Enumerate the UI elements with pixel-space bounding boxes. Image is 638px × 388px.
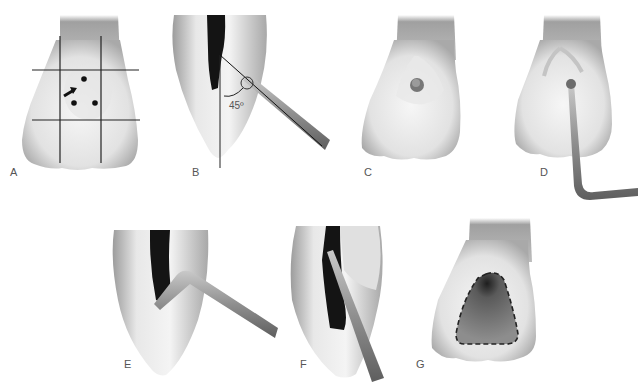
panel-g [432,218,536,362]
dental-access-figure: 45º [0,0,638,388]
panel-c [362,15,461,160]
dot-icon [71,100,77,106]
angle-label: 45º [229,100,244,111]
panel-e [113,230,278,375]
panel-label-b: B [192,166,199,178]
panel-label-f: F [300,358,307,370]
panel-a [22,15,140,170]
panel-d [514,15,638,200]
panel-label-d: D [540,166,548,178]
tooth-d-crown [514,40,612,158]
panel-label-e: E [124,358,131,370]
panel-label-g: G [416,358,425,370]
panel-label-a: A [10,166,17,178]
panel-b: 45º [172,15,330,168]
dot-icon [81,76,87,82]
dot-icon [92,100,98,106]
panel-label-c: C [364,166,372,178]
